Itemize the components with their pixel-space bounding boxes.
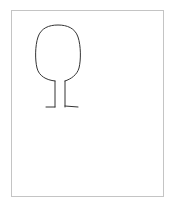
tree-root-right	[65, 106, 78, 107]
tree-canopy	[36, 25, 81, 81]
tree-drawing	[0, 0, 176, 208]
